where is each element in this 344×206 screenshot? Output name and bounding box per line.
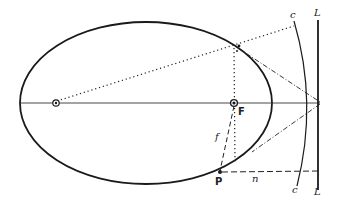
left-focus <box>53 100 59 106</box>
curve-c <box>294 21 307 186</box>
label-f: f <box>214 131 221 142</box>
dash-dot-line-lower <box>252 104 320 152</box>
label-L-top: L <box>313 7 321 18</box>
label-n: n <box>252 173 258 184</box>
label-F: F <box>238 106 245 117</box>
dash-dot-line-upper <box>238 48 320 102</box>
dashed-segment-P-to-L <box>222 171 318 172</box>
right-focus-F <box>231 100 238 107</box>
point-P <box>218 170 222 174</box>
dotted-ray-from-left-focus <box>57 26 294 101</box>
label-c-bottom: c <box>292 184 298 195</box>
ellipse-diagram: F P f n L L c c <box>0 0 344 206</box>
label-P: P <box>215 176 222 187</box>
label-c-top: c <box>290 9 296 20</box>
upper-point-marker-2 <box>236 50 238 52</box>
label-L-bottom: L <box>313 186 321 197</box>
upper-point-marker <box>238 45 241 48</box>
